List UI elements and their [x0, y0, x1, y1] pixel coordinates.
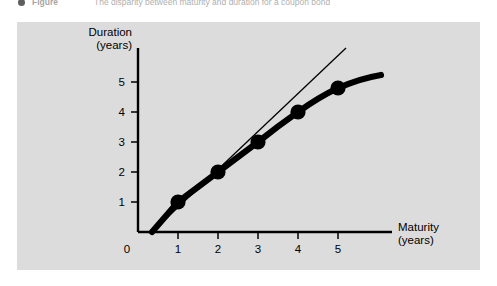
- chart-panel: 1 2 3 4 5 0 1 2 3 4 5 Duration (years) M…: [17, 22, 480, 270]
- data-point-5: [330, 80, 345, 95]
- figure-caption-text: The disparity between maturity and durat…: [94, 0, 330, 7]
- data-point-4: [290, 104, 305, 119]
- data-point-3: [250, 134, 265, 149]
- x-tick-label-1: 1: [175, 243, 181, 255]
- origin-label: 0: [124, 243, 130, 255]
- x-axis-title-unit: (years): [398, 234, 434, 246]
- data-point-2: [210, 164, 225, 179]
- y-tick-label-5: 5: [119, 76, 125, 88]
- figure-caption: Figure The disparity between maturity an…: [0, 0, 497, 11]
- duration-maturity-chart: 1 2 3 4 5 0 1 2 3 4 5 Duration (years) M…: [17, 22, 480, 270]
- bullet-dot-icon: [18, 0, 25, 6]
- data-point-1: [170, 194, 185, 209]
- x-tick-label-5: 5: [335, 243, 341, 255]
- x-tick-label-3: 3: [255, 243, 261, 255]
- y-axis-title-unit: (years): [96, 39, 132, 51]
- y-tick-label-4: 4: [119, 106, 126, 118]
- x-tick-label-2: 2: [215, 243, 221, 255]
- x-axis-title: Maturity: [398, 221, 439, 233]
- x-tick-label-4: 4: [295, 243, 302, 255]
- duration-curve: [152, 75, 381, 232]
- y-tick-label-3: 3: [119, 136, 125, 148]
- y-tick-label-2: 2: [119, 166, 125, 178]
- figure-label: Figure: [32, 0, 58, 7]
- y-axis-title: Duration: [89, 26, 132, 38]
- y-tick-label-1: 1: [119, 196, 125, 208]
